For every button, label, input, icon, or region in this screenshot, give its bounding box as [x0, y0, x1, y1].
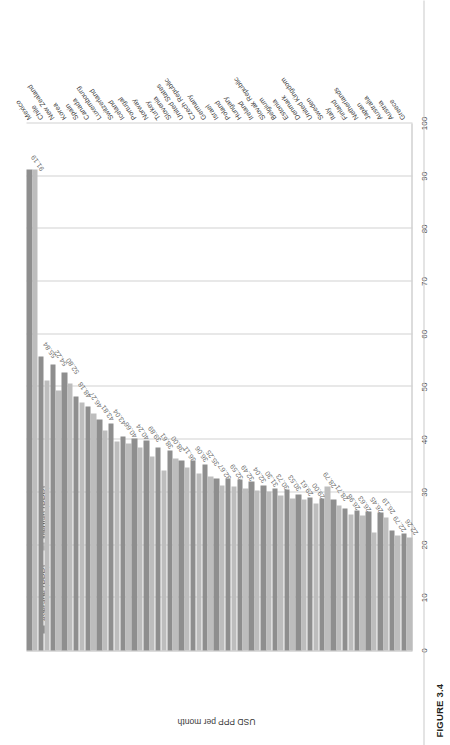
bar-average[interactable]: [377, 512, 382, 650]
bar-group: Sweden28.79: [318, 123, 330, 650]
value-axis-title: USD PPP per month: [116, 716, 316, 726]
bar-median[interactable]: [55, 390, 60, 650]
bar-average[interactable]: [85, 406, 90, 650]
bar-group: Spain48.18: [73, 123, 85, 650]
bar-group: Denmark29.61: [295, 123, 307, 650]
bar-median[interactable]: [149, 456, 154, 650]
bar-median[interactable]: [196, 473, 201, 650]
bar-average[interactable]: [108, 423, 113, 650]
bar-median[interactable]: [114, 441, 119, 650]
bar-group: Canada46.27: [84, 123, 96, 650]
bar-median[interactable]: [184, 467, 189, 650]
bar-median[interactable]: [67, 383, 72, 650]
bar-group: Estonia30.53: [283, 123, 295, 650]
bar-median[interactable]: [324, 486, 329, 650]
bar-group: Finland26.98: [342, 123, 354, 650]
bar-median[interactable]: [406, 537, 411, 650]
bar-group: Luxembourg43.81: [96, 123, 108, 650]
bar-median[interactable]: [79, 402, 84, 650]
bar-average[interactable]: [237, 479, 242, 650]
bar-median[interactable]: [242, 488, 247, 650]
bar-average[interactable]: [178, 460, 183, 650]
bar-median[interactable]: [137, 447, 142, 650]
bar-group: Slovak Republic31.30: [260, 123, 272, 650]
bar-group: Austria22.79: [389, 123, 401, 650]
bar-median[interactable]: [277, 495, 282, 650]
bar-average[interactable]: [307, 497, 312, 650]
bar-average[interactable]: [342, 508, 347, 650]
bar-median[interactable]: [336, 505, 341, 650]
bar-median[interactable]: [125, 443, 130, 650]
bar-average[interactable]: [26, 169, 31, 650]
bar-median[interactable]: [231, 486, 236, 650]
bar-group: United Kingdom29.00: [307, 123, 319, 650]
bar-median[interactable]: [301, 499, 306, 650]
bar-median[interactable]: [383, 517, 388, 650]
bar-group: Portugal40.24: [131, 123, 143, 650]
bar-median[interactable]: [313, 503, 318, 650]
bar-median[interactable]: [359, 515, 364, 650]
figure-page: USD PPP per month Average (PPP) Median (…: [0, 0, 450, 745]
bar-average[interactable]: [38, 356, 43, 650]
bar-group: Czech Republic36.06: [190, 123, 202, 650]
bar-group: Australia26.19: [377, 123, 389, 650]
bar-group: Israel32.67: [213, 123, 225, 650]
bar-average[interactable]: [167, 450, 172, 650]
bar-group: Japan26.45: [365, 123, 377, 650]
bar-median[interactable]: [371, 532, 376, 650]
bar-average[interactable]: [248, 481, 253, 650]
bar-median[interactable]: [254, 490, 259, 650]
bar-group: Italy28.71: [330, 123, 342, 650]
bar-average[interactable]: [284, 489, 289, 650]
bar-average[interactable]: [401, 533, 406, 650]
rotated-figure-wrapper: USD PPP per month Average (PPP) Median (…: [0, 0, 450, 745]
bar-average[interactable]: [50, 364, 55, 650]
bar-group: Ireland32.04: [248, 123, 260, 650]
bar-median[interactable]: [90, 413, 95, 650]
bar-median[interactable]: [44, 380, 49, 650]
bar-chart: USD PPP per month Average (PPP) Median (…: [26, 37, 412, 685]
bar-average[interactable]: [260, 485, 265, 650]
bar-median[interactable]: [207, 476, 212, 650]
bar-median[interactable]: [348, 514, 353, 650]
bar-group: Iceland40.66: [120, 123, 132, 650]
bar-group: Slovenia38.00: [166, 123, 178, 650]
bar-group: Greece22.26: [400, 123, 412, 650]
bar-median[interactable]: [161, 470, 166, 650]
bar-median[interactable]: [266, 491, 271, 650]
bar-average[interactable]: [155, 447, 160, 650]
bar-median[interactable]: [289, 498, 294, 650]
bar-average[interactable]: [354, 510, 359, 650]
bar-average[interactable]: [143, 440, 148, 650]
bar-group: New Zealand54.22: [49, 123, 61, 650]
bar-group: Belgium30.73: [272, 123, 284, 650]
bar-group: Hungary32.49: [237, 123, 249, 650]
bar-average[interactable]: [131, 438, 136, 650]
bar-median[interactable]: [219, 485, 224, 650]
bar-median[interactable]: [102, 430, 107, 650]
figure-caption: FIGURE 3.4: [433, 683, 444, 737]
bar-median[interactable]: [172, 458, 177, 650]
bar-average[interactable]: [61, 372, 66, 650]
caption-divider: [423, 0, 424, 745]
bar-group: United States36.11: [178, 123, 190, 650]
bar-average[interactable]: [213, 478, 218, 650]
bar-average[interactable]: [295, 494, 300, 650]
bar-average[interactable]: [330, 499, 335, 650]
bar-average[interactable]: [319, 498, 324, 650]
bar-average[interactable]: [272, 488, 277, 650]
bar-average[interactable]: [190, 460, 195, 650]
bar-average[interactable]: [120, 436, 125, 650]
figure-container: USD PPP per month Average (PPP) Median (…: [0, 0, 450, 745]
bar-average[interactable]: [389, 530, 394, 650]
bar-group: Netherlands26.63: [354, 123, 366, 650]
bar-median[interactable]: [32, 169, 37, 650]
bar-group: Turkey38.61: [155, 123, 167, 650]
bar-average[interactable]: [96, 419, 101, 650]
bar-average[interactable]: [73, 396, 78, 650]
bar-average[interactable]: [225, 478, 230, 650]
bar-average[interactable]: [202, 464, 207, 650]
bar-group: Norway39.89: [143, 123, 155, 650]
bar-average[interactable]: [365, 511, 370, 650]
bar-median[interactable]: [394, 535, 399, 650]
